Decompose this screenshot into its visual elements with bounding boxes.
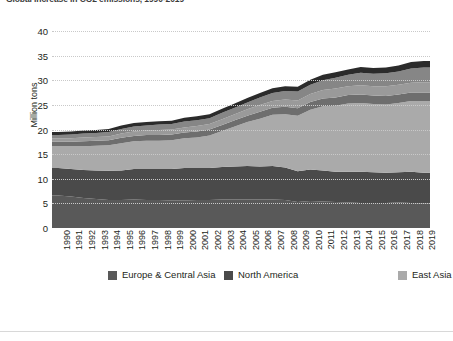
x-tick-label: 2016 — [389, 230, 399, 250]
gridline — [52, 154, 430, 155]
y-tick-label: 30 — [20, 75, 48, 86]
legend-label: North America — [238, 267, 298, 283]
y-axis-ticks: 0510152025303540 — [14, 0, 48, 260]
x-tick-label: 2005 — [251, 230, 261, 250]
bottom-divider — [0, 331, 453, 332]
x-tick-label: 1990 — [62, 230, 72, 250]
x-tick-label: 2019 — [427, 230, 437, 250]
chart-legend: Europe & Central AsiaNorth AmericaEast A… — [108, 267, 398, 283]
gridline — [52, 179, 430, 180]
y-tick-label: 0 — [20, 223, 48, 234]
x-tick-label: 2000 — [188, 230, 198, 250]
x-tick-label: 2003 — [226, 230, 236, 250]
y-tick-label: 25 — [20, 99, 48, 110]
y-tick-label: 20 — [20, 124, 48, 135]
y-tick-label: 40 — [20, 26, 48, 37]
x-tick-label: 1999 — [175, 230, 185, 250]
x-tick-label: 2001 — [200, 230, 210, 250]
x-tick-label: 2014 — [364, 230, 374, 250]
x-tick-label: 2017 — [402, 230, 412, 250]
legend-swatch-icon — [398, 271, 407, 280]
grid-and-series — [52, 0, 430, 260]
legend-swatch-icon — [224, 271, 233, 280]
x-tick-label: 2009 — [301, 230, 311, 250]
legend-label: East Asia & Pacific — [412, 267, 453, 283]
gridline — [52, 80, 430, 81]
x-tick-label: 1996 — [137, 230, 147, 250]
x-tick-label: 2015 — [377, 230, 387, 250]
legend-item[interactable]: Europe & Central Asia — [108, 267, 224, 283]
y-tick-label: 35 — [20, 50, 48, 61]
legend-item[interactable]: North America — [224, 267, 398, 283]
chart-plot-area: Million tons 0510152025303540 1990199119… — [0, 0, 453, 260]
x-tick-label: 1994 — [112, 230, 122, 250]
y-tick-label: 10 — [20, 173, 48, 184]
legend-label: Europe & Central Asia — [122, 267, 215, 283]
x-tick-label: 1991 — [74, 230, 84, 250]
gridline — [52, 56, 430, 57]
x-tick-label: 1992 — [87, 230, 97, 250]
x-tick-label: 1995 — [125, 230, 135, 250]
x-tick-label: 2008 — [289, 230, 299, 250]
gridline — [52, 105, 430, 106]
gridline — [52, 130, 430, 131]
x-tick-label: 2006 — [263, 230, 273, 250]
legend-item[interactable]: East Asia & Pacific — [398, 267, 453, 283]
x-tick-label: 2012 — [339, 230, 349, 250]
y-tick-label: 5 — [20, 198, 48, 209]
x-tick-label: 2002 — [213, 230, 223, 250]
x-tick-label: 2004 — [238, 230, 248, 250]
x-tick-label: 1997 — [150, 230, 160, 250]
x-tick-label: 2013 — [352, 230, 362, 250]
x-tick-label: 2010 — [314, 230, 324, 250]
gridline — [52, 203, 430, 204]
x-tick-label: 2007 — [276, 230, 286, 250]
x-tick-label: 1993 — [100, 230, 110, 250]
x-tick-label: 2018 — [415, 230, 425, 250]
x-tick-label: 1998 — [163, 230, 173, 250]
x-tick-label: 2011 — [326, 230, 336, 249]
legend-swatch-icon — [108, 271, 117, 280]
y-tick-label: 15 — [20, 149, 48, 160]
gridline — [52, 31, 430, 32]
